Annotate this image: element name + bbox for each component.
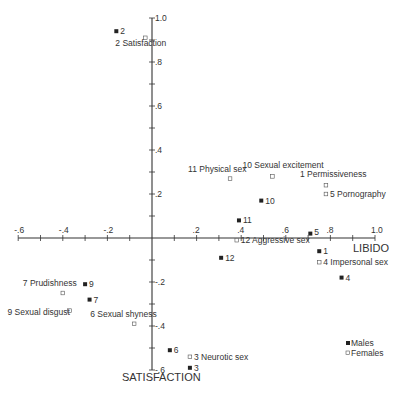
female-point-5: 5 Pornography <box>324 189 386 199</box>
point-label: 1 Permissiveness <box>300 169 367 179</box>
male-point-1: 1 <box>317 246 328 256</box>
point-label: 6 <box>174 345 179 355</box>
x-tick-label: .8 <box>326 225 333 235</box>
open-square-marker <box>271 175 275 179</box>
x-axis-label: LIBIDO <box>353 242 390 254</box>
x-tick-label: -.2 <box>103 225 113 235</box>
female-point-1: 1 Permissiveness <box>300 169 367 187</box>
female-point-12: 12 Aggressive sex <box>235 235 311 245</box>
point-label: 9 <box>89 279 94 289</box>
x-tick-label: .2 <box>193 225 200 235</box>
open-square-marker <box>324 183 328 187</box>
point-label: 3 Neurotic sex <box>194 352 249 362</box>
point-label: 12 Aggressive sex <box>241 235 311 245</box>
point-label: 12 <box>225 253 235 263</box>
x-tick-label: .6 <box>282 225 289 235</box>
open-square-marker <box>235 238 239 242</box>
y-tick-label: 1.0 <box>155 13 167 23</box>
scatter-chart: -.6-.4-.2.2.4.6.81.01.0.8.6.4.2-.2-.4-.6… <box>0 0 411 399</box>
female-point-11: 11 Physical sex <box>188 164 247 181</box>
filled-square-marker <box>237 218 241 222</box>
open-square-marker <box>317 260 321 264</box>
male-point-10: 10 <box>259 196 275 206</box>
x-tick-label: 1.0 <box>371 225 383 235</box>
point-label: 11 <box>243 215 252 225</box>
filled-square-marker <box>88 298 92 302</box>
male-point-5: 5 <box>308 227 319 237</box>
legend-female-marker <box>346 351 350 355</box>
point-label: 5 <box>314 227 319 237</box>
filled-square-marker <box>114 29 118 33</box>
point-label: 9 Sexual disgust <box>7 307 70 317</box>
point-label: 2 Satisfaction <box>115 38 166 48</box>
filled-square-marker <box>219 256 223 260</box>
male-point-2: 2 <box>114 26 125 36</box>
male-point-12: 12 <box>219 253 235 263</box>
point-label: 5 Pornography <box>330 189 387 199</box>
open-square-marker <box>228 177 232 181</box>
x-tick-label: .4 <box>237 225 244 235</box>
point-label: 6 Sexual shyness <box>90 309 157 319</box>
filled-square-marker <box>317 249 321 253</box>
point-label: 7 Prudishness <box>23 278 77 288</box>
male-point-6: 6 <box>168 345 179 355</box>
open-square-marker <box>61 291 65 295</box>
open-square-marker <box>324 192 328 196</box>
male-point-7: 7 <box>88 295 99 305</box>
y-tick-label: -.4 <box>155 321 165 331</box>
male-point-9: 9 <box>83 279 94 289</box>
male-point-11: 11 <box>237 215 252 225</box>
y-tick-label: .8 <box>155 57 162 67</box>
legend-male-marker <box>346 341 350 345</box>
female-point-6: 6 Sexual shyness <box>90 309 157 326</box>
legend: Males Females <box>346 338 384 358</box>
point-label: 11 Physical sex <box>188 164 247 174</box>
filled-square-marker <box>188 366 192 370</box>
legend-female-label: Females <box>351 348 384 358</box>
data-points: 123456791011121 Permissiveness2 Satisfac… <box>7 26 388 373</box>
female-point-4: 4 Impersonal sex <box>317 257 388 267</box>
point-label: 10 <box>265 196 275 206</box>
female-point-7: 7 Prudishness <box>23 278 77 295</box>
y-tick-label: .6 <box>155 101 162 111</box>
filled-square-marker <box>259 199 263 203</box>
female-point-9: 9 Sexual disgust <box>7 307 71 317</box>
y-tick-label: .2 <box>155 189 162 199</box>
point-label: 2 <box>120 26 125 36</box>
y-axis-label: SATISFACTION <box>122 371 201 383</box>
filled-square-marker <box>168 348 172 352</box>
filled-square-marker <box>83 282 87 286</box>
x-tick-label: -.6 <box>14 225 24 235</box>
point-label: 4 Impersonal sex <box>323 257 388 267</box>
filled-square-marker <box>340 276 344 280</box>
female-point-3: 3 Neurotic sex <box>188 352 249 362</box>
open-square-marker <box>132 322 136 326</box>
axes <box>18 18 375 370</box>
open-square-marker <box>188 355 192 359</box>
point-label: 7 <box>94 295 99 305</box>
female-point-2: 2 Satisfaction <box>115 36 166 48</box>
y-tick-label: .4 <box>155 145 162 155</box>
y-tick-label: -.2 <box>155 277 165 287</box>
x-tick-label: -.4 <box>59 225 69 235</box>
male-point-4: 4 <box>340 273 351 283</box>
point-label: 10 Sexual excitement <box>242 160 324 170</box>
legend-male-label: Males <box>351 338 374 348</box>
point-label: 1 <box>323 246 328 256</box>
point-label: 4 <box>346 273 351 283</box>
